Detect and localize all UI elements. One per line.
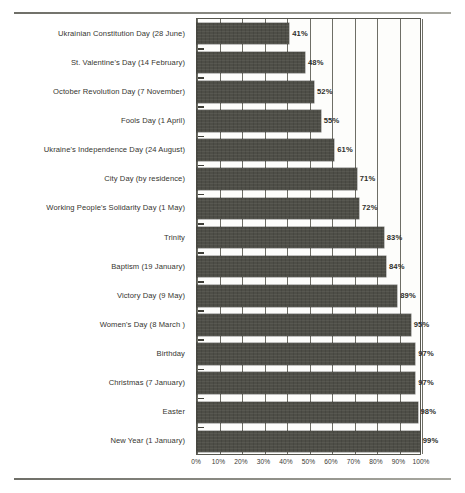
category-axis: Ukrainian Constitution Day (28 June)St. … bbox=[0, 18, 191, 455]
bar bbox=[197, 314, 411, 336]
x-axis-tick-labels: 0%10%20%30%40%50%60%70%80%90%100% bbox=[196, 458, 465, 472]
axis-tick bbox=[198, 223, 204, 225]
x-tick-label: 70% bbox=[347, 458, 360, 465]
x-tick-label: 50% bbox=[302, 458, 315, 465]
axis-tick bbox=[198, 194, 204, 196]
axis-tick bbox=[198, 398, 204, 400]
page-rule-top bbox=[14, 12, 451, 14]
category-label: Baptism (19 January) bbox=[0, 261, 185, 270]
page-rule-bottom bbox=[14, 478, 451, 480]
bar bbox=[197, 227, 384, 249]
category-label: St. Valentine's Day (14 February) bbox=[0, 57, 185, 66]
bar bbox=[197, 372, 415, 394]
axis-tick bbox=[198, 310, 204, 312]
category-label: Women's Day (8 March ) bbox=[0, 319, 185, 328]
category-label: Fools Day (1 April) bbox=[0, 115, 185, 124]
gridline-100pct bbox=[422, 19, 423, 454]
category-label: City Day (by residence) bbox=[0, 174, 185, 183]
category-label: Victory Day (9 May) bbox=[0, 290, 185, 299]
bar bbox=[197, 139, 334, 161]
bar bbox=[197, 198, 359, 220]
axis-tick bbox=[198, 252, 204, 254]
x-tick-label: 10% bbox=[212, 458, 225, 465]
axis-tick bbox=[198, 48, 204, 50]
bar bbox=[197, 168, 357, 190]
category-label: Ukraine's Independence Day (24 August) bbox=[0, 145, 185, 154]
category-label: Easter bbox=[0, 407, 185, 416]
x-tick-label: 100% bbox=[412, 458, 429, 465]
category-label: October Revolution Day (7 November) bbox=[0, 86, 185, 95]
bar-series bbox=[197, 19, 420, 454]
axis-tick bbox=[198, 136, 204, 138]
category-label: Birthday bbox=[0, 349, 185, 358]
x-tick-label: 60% bbox=[324, 458, 337, 465]
bar-chart-figure: Ukrainian Constitution Day (28 June)St. … bbox=[0, 18, 465, 470]
x-tick-label: 30% bbox=[257, 458, 270, 465]
axis-tick bbox=[198, 339, 204, 341]
axis-tick bbox=[198, 427, 204, 429]
axis-tick bbox=[198, 77, 204, 79]
axis-tick bbox=[198, 106, 204, 108]
category-label: New Year (1 January) bbox=[0, 436, 185, 445]
plot-area bbox=[196, 18, 421, 455]
bar bbox=[197, 285, 397, 307]
x-tick-label: 20% bbox=[234, 458, 247, 465]
bar bbox=[197, 256, 386, 278]
axis-tick bbox=[198, 165, 204, 167]
category-label: Christmas (7 January) bbox=[0, 378, 185, 387]
category-label: Trinity bbox=[0, 232, 185, 241]
category-label: Working People's Solidarity Day (1 May) bbox=[0, 203, 185, 212]
bar bbox=[197, 81, 314, 103]
axis-tick bbox=[198, 281, 204, 283]
bar-value-label: 98% bbox=[421, 407, 437, 416]
category-label: Ukrainian Constitution Day (28 June) bbox=[0, 28, 185, 37]
bar bbox=[197, 343, 415, 365]
bar bbox=[197, 402, 418, 424]
bar-value-label: 99% bbox=[423, 436, 439, 445]
x-tick-label: 0% bbox=[191, 458, 201, 465]
bar bbox=[197, 52, 305, 74]
x-tick-label: 90% bbox=[392, 458, 405, 465]
axis-tick bbox=[198, 369, 204, 371]
bar bbox=[197, 110, 321, 132]
x-tick-label: 40% bbox=[279, 458, 292, 465]
bar bbox=[197, 431, 420, 453]
x-tick-label: 80% bbox=[369, 458, 382, 465]
bar bbox=[197, 23, 289, 45]
